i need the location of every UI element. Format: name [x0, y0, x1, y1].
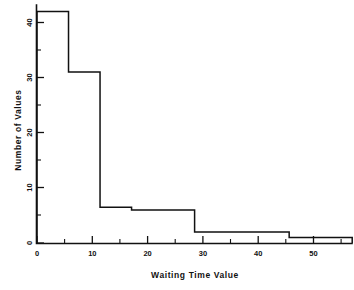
y-axis-tick-labels: 40 30 20 10 0	[25, 18, 34, 245]
histogram-figure: 40 30 20 10 0 0 10 20	[0, 0, 354, 290]
y-tick-label: 20	[25, 128, 34, 136]
x-tick-label: 10	[88, 249, 96, 258]
x-tick-label: 50	[309, 249, 317, 258]
x-tick-label: 0	[35, 249, 39, 258]
histogram-plot: 40 30 20 10 0 0 10 20	[0, 0, 354, 290]
x-tick-label: 40	[254, 249, 262, 258]
y-tick-label: 0	[25, 241, 34, 245]
y-tick-label: 10	[25, 183, 34, 191]
y-tick-label: 30	[25, 73, 34, 81]
x-tick-label: 30	[199, 249, 207, 258]
histogram-step-outline	[37, 11, 352, 243]
axis-lines	[37, 5, 353, 244]
y-tick-label: 40	[25, 18, 34, 26]
x-axis-tick-labels: 0 10 20 30 40 50	[35, 249, 318, 258]
x-tick-label: 20	[143, 249, 151, 258]
x-axis-title: Waiting Time Value	[0, 270, 354, 280]
axes-group	[37, 5, 353, 244]
y-axis-title: Number of Values	[13, 60, 23, 200]
